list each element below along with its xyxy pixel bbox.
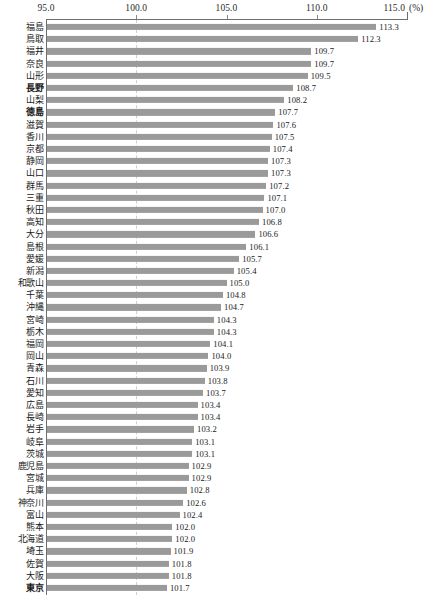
bar-row[interactable]: 沖縄104.7 [0, 301, 426, 313]
bar-value-label: 103.4 [201, 413, 221, 422]
bar-row[interactable]: 秋田107.0 [0, 204, 426, 216]
bar-row[interactable]: 大阪101.8 [0, 570, 426, 582]
bar[interactable] [47, 292, 223, 298]
bar[interactable] [47, 304, 221, 310]
bar[interactable] [47, 195, 264, 201]
bar-row[interactable]: 石川103.8 [0, 375, 426, 387]
bar-row[interactable]: 新潟105.4 [0, 265, 426, 277]
bar[interactable] [47, 280, 227, 286]
bar-row[interactable]: 千葉104.8 [0, 289, 426, 301]
bar-value-label: 109.5 [311, 72, 331, 81]
bar-row[interactable]: 青森103.9 [0, 362, 426, 374]
bar-row[interactable]: 熊本102.0 [0, 521, 426, 533]
bar[interactable] [47, 256, 239, 262]
bar[interactable] [47, 585, 167, 591]
bar[interactable] [47, 317, 214, 323]
bar[interactable] [47, 560, 169, 566]
bar[interactable] [47, 231, 255, 237]
bar[interactable] [47, 207, 263, 213]
bar[interactable] [47, 487, 187, 493]
bar-row[interactable]: 佐賀101.8 [0, 557, 426, 569]
bar[interactable] [47, 48, 311, 54]
bar[interactable] [47, 414, 198, 420]
bar-row[interactable]: 兵庫102.8 [0, 484, 426, 496]
bar-row[interactable]: 山形109.5 [0, 70, 426, 82]
bar-row[interactable]: 山梨108.2 [0, 94, 426, 106]
bar[interactable] [47, 341, 210, 347]
bar[interactable] [47, 158, 268, 164]
bar[interactable] [47, 353, 208, 359]
bar[interactable] [47, 426, 194, 432]
bar[interactable] [47, 524, 172, 530]
bar[interactable] [47, 146, 270, 152]
bar-row[interactable]: 神奈川102.6 [0, 496, 426, 508]
bar[interactable] [47, 36, 358, 42]
bar-row[interactable]: 長崎103.4 [0, 411, 426, 423]
bar-row[interactable]: 三重107.1 [0, 192, 426, 204]
bar-row[interactable]: 愛知103.7 [0, 387, 426, 399]
bar-row[interactable]: 広島103.4 [0, 399, 426, 411]
bar[interactable] [47, 390, 203, 396]
bar-row[interactable]: 徳島107.7 [0, 106, 426, 118]
bar-row[interactable]: 富山102.4 [0, 509, 426, 521]
bar[interactable] [47, 97, 284, 103]
bar[interactable] [47, 219, 259, 225]
prefecture-label: 栃木 [26, 327, 44, 336]
bar[interactable] [47, 85, 293, 91]
bar-row[interactable]: 鹿児島102.9 [0, 460, 426, 472]
bar[interactable] [47, 439, 192, 445]
bar[interactable] [47, 548, 171, 554]
bar-row[interactable]: 奈良109.7 [0, 58, 426, 70]
bar-row[interactable]: 福岡104.1 [0, 338, 426, 350]
bar[interactable] [47, 329, 214, 335]
bar-row[interactable]: 滋賀107.6 [0, 119, 426, 131]
bar[interactable] [47, 61, 311, 67]
bar-value-label: 104.7 [224, 303, 244, 312]
bar-row[interactable]: 埼玉101.9 [0, 545, 426, 557]
bar[interactable] [47, 365, 207, 371]
bar-row[interactable]: 高知106.8 [0, 216, 426, 228]
bar-value-label: 107.5 [275, 133, 295, 142]
bar-row[interactable]: 島根106.1 [0, 240, 426, 252]
bar[interactable] [47, 134, 272, 140]
bar[interactable] [47, 512, 180, 518]
bar-row[interactable]: 福島113.3 [0, 21, 426, 33]
bar-value-label: 107.3 [271, 169, 291, 178]
bar-row[interactable]: 宮崎104.3 [0, 314, 426, 326]
bar[interactable] [47, 24, 376, 30]
bar-row[interactable]: 山口107.3 [0, 167, 426, 179]
bar-row[interactable]: 大分106.6 [0, 228, 426, 240]
bar-row[interactable]: 岡山104.0 [0, 350, 426, 362]
bar-row[interactable]: 群馬107.2 [0, 179, 426, 191]
bar-row[interactable]: 香川107.5 [0, 131, 426, 143]
bar[interactable] [47, 536, 172, 542]
bar-row[interactable]: 和歌山105.0 [0, 277, 426, 289]
bar[interactable] [47, 451, 192, 457]
bar[interactable] [47, 122, 273, 128]
bar[interactable] [47, 573, 169, 579]
bar[interactable] [47, 378, 205, 384]
bar[interactable] [47, 243, 246, 249]
bar-row[interactable]: 栃木104.3 [0, 326, 426, 338]
bar[interactable] [47, 170, 268, 176]
bar[interactable] [47, 268, 234, 274]
bar[interactable] [47, 402, 198, 408]
bar-row[interactable]: 福井109.7 [0, 45, 426, 57]
bar-row[interactable]: 東京101.7 [0, 582, 426, 594]
bar[interactable] [47, 499, 183, 505]
bar[interactable] [47, 463, 189, 469]
bar-row[interactable]: 愛媛105.7 [0, 253, 426, 265]
bar-row[interactable]: 鳥取112.3 [0, 33, 426, 45]
bar-row[interactable]: 岩手103.2 [0, 423, 426, 435]
bar[interactable] [47, 475, 189, 481]
bar-row[interactable]: 長野108.7 [0, 82, 426, 94]
bar-row[interactable]: 岐阜103.1 [0, 436, 426, 448]
bar[interactable] [47, 73, 308, 79]
bar-row[interactable]: 京都107.4 [0, 143, 426, 155]
bar-row[interactable]: 茨城103.1 [0, 448, 426, 460]
bar[interactable] [47, 182, 266, 188]
bar[interactable] [47, 109, 275, 115]
bar-row[interactable]: 北海道102.0 [0, 533, 426, 545]
bar-row[interactable]: 静岡107.3 [0, 155, 426, 167]
bar-row[interactable]: 宮城102.9 [0, 472, 426, 484]
